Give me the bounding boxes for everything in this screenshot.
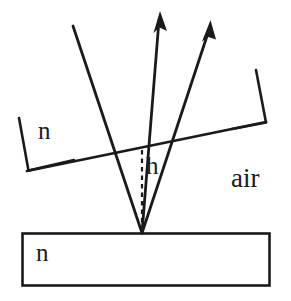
label-substrate-n: n (36, 240, 49, 265)
substrate-rectangle (23, 234, 270, 286)
reflected-ray-outer (142, 30, 209, 233)
reflected-ray-inner-arrowhead (154, 11, 168, 33)
reflected-ray-outer-arrowhead (202, 20, 216, 42)
label-medium-n-left: n (38, 118, 51, 143)
right-thickness-bracket (232, 70, 266, 129)
label-height-h: h (146, 153, 159, 178)
reflected-ray-inner (142, 20, 159, 233)
incident-ray (73, 26, 142, 233)
optics-ray-diagram: n h air n (0, 0, 291, 301)
label-air: air (231, 165, 259, 192)
